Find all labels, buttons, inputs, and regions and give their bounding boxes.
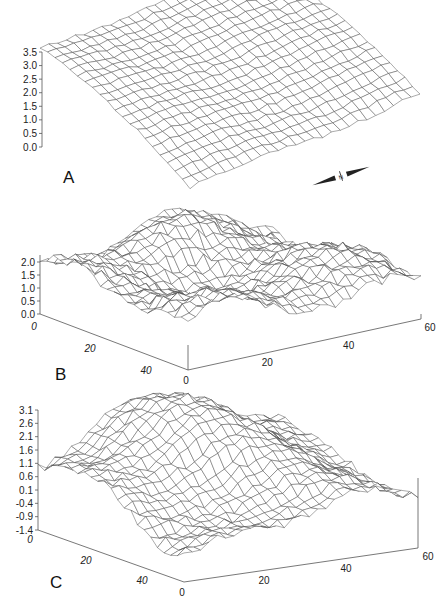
panel-a-label: A xyxy=(63,168,75,187)
panel-c-y-ticks: 02040 xyxy=(27,534,148,586)
z-tick-label: -0.9 xyxy=(16,511,34,522)
panel-c: -1.4-0.9-0.40.10.61.11.62.12.63.1 020406… xyxy=(16,393,434,598)
axis-tick-label: 20 xyxy=(262,357,274,368)
panel-b-z-axis: 0.00.51.01.52.0 xyxy=(21,255,40,320)
panel-c-z-axis: -1.4-0.9-0.40.10.61.11.62.12.63.1 xyxy=(16,405,38,536)
axis-tick-label: 40 xyxy=(343,340,355,351)
axis-tick-label: 40 xyxy=(136,575,148,586)
axis-tick-label: 60 xyxy=(424,322,436,333)
z-tick-label: 1.0 xyxy=(21,283,35,294)
axis-tick-label: 0 xyxy=(183,375,189,386)
z-tick-label: 0.5 xyxy=(21,296,35,307)
z-tick-label: -0.4 xyxy=(16,498,34,509)
z-tick-label: 3.5 xyxy=(23,47,37,58)
panel-b: 0.00.51.01.52.0 0204060 02040 B xyxy=(21,208,436,386)
north-arrow-icon: N xyxy=(311,162,371,190)
z-tick-label: 2.6 xyxy=(19,418,33,429)
z-tick-label: 0.0 xyxy=(23,142,37,153)
axis-tick-label: 60 xyxy=(422,551,434,562)
panel-b-x-ticks: 0204060 xyxy=(183,322,436,386)
axis-tick-label: 40 xyxy=(340,563,352,574)
z-tick-label: 0.0 xyxy=(21,309,35,320)
axis-tick-label: 20 xyxy=(83,343,96,354)
panel-c-surface xyxy=(38,393,418,556)
axis-tick-label: 0 xyxy=(179,587,185,598)
z-tick-label: 0.5 xyxy=(23,128,37,139)
z-tick-label: 2.0 xyxy=(23,87,37,98)
axis-tick-label: 0 xyxy=(27,534,33,545)
axis-tick-label: 20 xyxy=(79,555,92,566)
panel-b-base-axes xyxy=(40,314,421,370)
z-tick-label: 1.6 xyxy=(19,445,33,456)
z-tick-label: 3.0 xyxy=(23,60,37,71)
panel-c-x-ticks: 0204060 xyxy=(179,551,434,598)
panel-b-y-ticks: 02040 xyxy=(31,321,152,376)
panel-b-label: B xyxy=(55,365,66,384)
panel-a: 0.00.51.01.52.02.53.03.5 A N xyxy=(23,0,420,190)
z-tick-label: 1.1 xyxy=(19,458,33,469)
compass-label: N xyxy=(338,174,344,181)
axis-tick-label: 0 xyxy=(31,321,37,332)
z-tick-label: 0.1 xyxy=(19,485,33,496)
z-tick-label: 3.1 xyxy=(19,405,33,416)
panel-c-label: C xyxy=(50,573,62,592)
axis-tick-label: 20 xyxy=(258,575,270,586)
z-tick-label: 1.0 xyxy=(23,114,37,125)
z-tick-label: 1.5 xyxy=(21,270,35,281)
z-tick-label: 0.6 xyxy=(19,471,33,482)
axis-tick-label: 40 xyxy=(140,365,152,376)
panel-a-surface xyxy=(40,0,420,189)
z-tick-label: 2.1 xyxy=(19,431,33,442)
z-tick-label: 2.5 xyxy=(23,74,37,85)
panel-b-surface xyxy=(40,208,421,321)
z-tick-label: 1.5 xyxy=(23,101,37,112)
panel-a-z-axis: 0.00.51.01.52.02.53.03.5 xyxy=(23,47,42,153)
z-tick-label: 2.0 xyxy=(21,257,35,268)
figure-canvas: 0.00.51.01.52.02.53.03.5 A N 0.00.51.01.… xyxy=(0,0,448,608)
